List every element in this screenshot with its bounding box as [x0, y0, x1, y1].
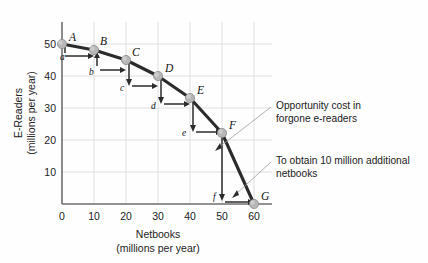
- point-label-C: C: [132, 46, 140, 58]
- y-tick-30: 30: [44, 102, 56, 114]
- y-tick-10: 10: [44, 166, 56, 178]
- y-tick-50: 50: [44, 38, 56, 50]
- point-label-G: G: [261, 190, 270, 202]
- y-axis-subtitle: (millions per year): [25, 71, 37, 154]
- annotation-opportunity-cost: Opportunity cost in forgone e-readers: [276, 100, 361, 124]
- x-tick-10: 10: [88, 210, 100, 222]
- production-possibilities-frontier-figure: 50 40 30 20 10 0 10 20 30 40 50 60 Netbo…: [0, 0, 428, 263]
- x-axis-title: Netbooks: [136, 228, 180, 240]
- step-label-b: b: [89, 67, 94, 77]
- data-point-G: [249, 199, 258, 208]
- point-label-E: E: [196, 84, 204, 96]
- step-label-c: c: [120, 83, 125, 93]
- x-axis-subtitle: (millions per year): [116, 242, 199, 254]
- annotation-additional-netbooks-line1: To obtain 10 million additional: [276, 155, 410, 166]
- data-point-C: [121, 55, 130, 64]
- x-tick-40: 40: [184, 210, 196, 222]
- point-label-F: F: [228, 119, 237, 131]
- data-point-B: [89, 45, 98, 54]
- x-tick-60: 60: [248, 210, 260, 222]
- step-label-d: d: [151, 101, 156, 111]
- x-tick-30: 30: [152, 210, 164, 222]
- grid-vertical: [94, 22, 254, 204]
- point-label-A: A: [68, 31, 77, 43]
- x-tick-50: 50: [216, 210, 228, 222]
- y-tick-labels: 50 40 30 20 10: [44, 38, 56, 178]
- point-label-B: B: [100, 35, 107, 47]
- annotation-additional-netbooks: To obtain 10 million additional netbooks: [276, 155, 410, 179]
- annotation-leaders: [215, 107, 271, 198]
- annotation-opportunity-cost-line1: Opportunity cost in: [276, 100, 361, 111]
- data-point-E: [185, 93, 194, 102]
- step-label-e: e: [182, 128, 186, 138]
- annotation-additional-netbooks-line2: netbooks: [276, 168, 317, 179]
- y-tick-20: 20: [44, 134, 56, 146]
- data-point-A: [57, 39, 66, 48]
- chart-canvas: 50 40 30 20 10 0 10 20 30 40 50 60 Netbo…: [0, 0, 428, 263]
- x-tick-0: 0: [59, 210, 65, 222]
- step-label-a: a: [60, 52, 65, 62]
- y-tick-40: 40: [44, 70, 56, 82]
- point-label-D: D: [164, 62, 174, 74]
- step-label-f: f: [213, 192, 217, 202]
- data-point-D: [153, 71, 162, 80]
- x-tick-labels: 0 10 20 30 40 50 60: [59, 210, 260, 222]
- x-tick-20: 20: [120, 210, 132, 222]
- data-point-F: [217, 128, 226, 137]
- y-axis-title: E-Readers: [12, 88, 24, 138]
- annotation-opportunity-cost-line2: forgone e-readers: [276, 113, 357, 124]
